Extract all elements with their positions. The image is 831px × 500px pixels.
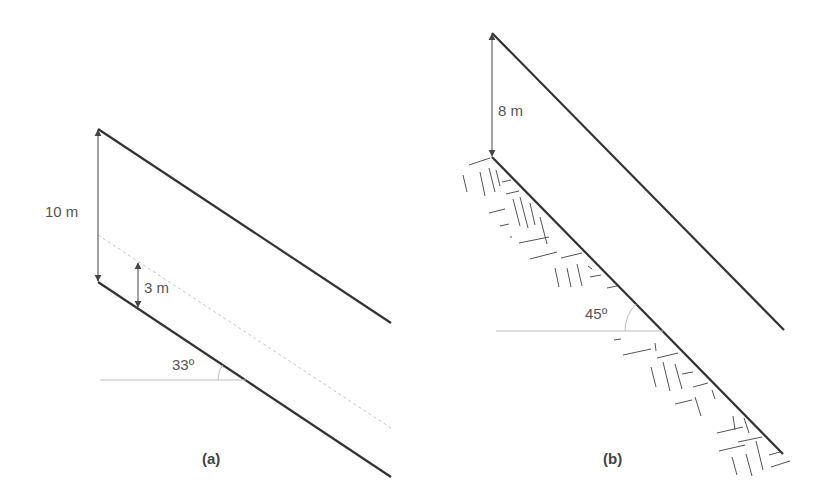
panel-b-caption: (b) xyxy=(603,451,622,466)
panel-b-angle-arc xyxy=(625,304,636,331)
panel-a-total-height-label: 10 m xyxy=(45,204,78,219)
panel-a-water-table-dashed-line xyxy=(98,235,391,428)
panel-b-lower-rock-surface xyxy=(492,157,783,454)
panel-b xyxy=(463,33,790,476)
panel-a xyxy=(98,129,391,477)
panel-b-rock-hatching xyxy=(463,158,790,476)
panel-a-water-height-label: 3 m xyxy=(144,280,169,295)
panel-b-upper-ground-surface xyxy=(492,33,784,330)
panel-a-slope-angle-label: 33º xyxy=(172,357,194,372)
panel-a-upper-ground-surface xyxy=(98,129,391,323)
panel-a-caption: (a) xyxy=(202,451,220,466)
panel-b-slope-angle-label: 45º xyxy=(585,306,607,321)
slope-diagram xyxy=(0,0,831,500)
panel-a-angle-arc xyxy=(218,365,223,380)
panel-b-thickness-label: 8 m xyxy=(498,103,523,118)
